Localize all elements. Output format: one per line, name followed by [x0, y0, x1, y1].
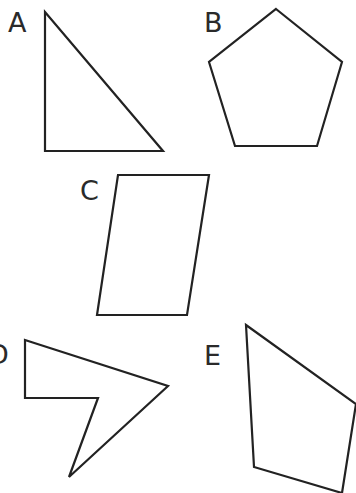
label-a: A: [8, 7, 27, 38]
label-e: E: [204, 340, 221, 371]
label-d: D: [0, 339, 9, 370]
concave-shape-d: [25, 340, 168, 477]
shape-c: C: [80, 175, 209, 315]
quadrilateral-e: [246, 325, 356, 493]
shapes-diagram: A B C D E: [0, 0, 356, 493]
label-c: C: [80, 175, 99, 206]
shape-e: E: [204, 325, 356, 493]
pentagon-b: [209, 9, 342, 146]
label-b: B: [204, 7, 223, 38]
shape-b: B: [204, 7, 342, 146]
shape-a: A: [8, 7, 163, 151]
triangle-a: [45, 12, 163, 151]
parallelogram-c: [97, 175, 209, 315]
shape-d: D: [0, 339, 168, 477]
